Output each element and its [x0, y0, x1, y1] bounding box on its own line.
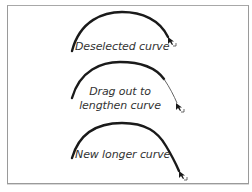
- drag-instruction-line-2: lengthen curve: [70, 99, 170, 112]
- cursor-icon: [168, 37, 176, 46]
- drag-instruction-line-1: Drag out to: [75, 85, 165, 98]
- cursor-icon: [179, 171, 187, 180]
- cursor-icon: [176, 103, 184, 112]
- lengthened-curve-label: New longer curve: [75, 148, 165, 161]
- deselected-curve-label: Deselected curve: [75, 40, 165, 53]
- lengthened-curve: [72, 123, 179, 171]
